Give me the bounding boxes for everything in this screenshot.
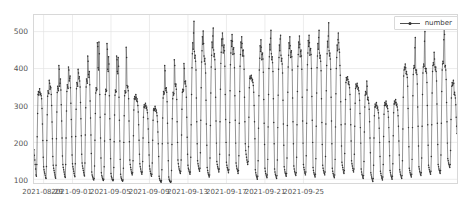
legend-label: number (425, 19, 452, 27)
chart-figure: 100200300400500 number 2021-08-292021-09… (0, 0, 471, 224)
x-tick-label: 2021-09-09 (129, 188, 170, 196)
x-tick-label: 2021-09-01 (51, 188, 92, 196)
y-tick-label: 500 (2, 26, 28, 35)
y-tick-label: 400 (2, 64, 28, 73)
x-tick-label: 2021-09-05 (90, 188, 131, 196)
x-tick-label: 2021-09-17 (206, 188, 247, 196)
y-tick-label: 100 (2, 176, 28, 185)
y-tick-label: 300 (2, 101, 28, 110)
legend[interactable]: number (394, 16, 458, 30)
x-tick-label: 2021-09-21 (245, 188, 286, 196)
x-tick-label: 2021-09-13 (167, 188, 208, 196)
x-tick-label: 2021-09-25 (283, 188, 324, 196)
legend-line-marker-icon (399, 20, 421, 27)
y-tick-label: 200 (2, 138, 28, 147)
